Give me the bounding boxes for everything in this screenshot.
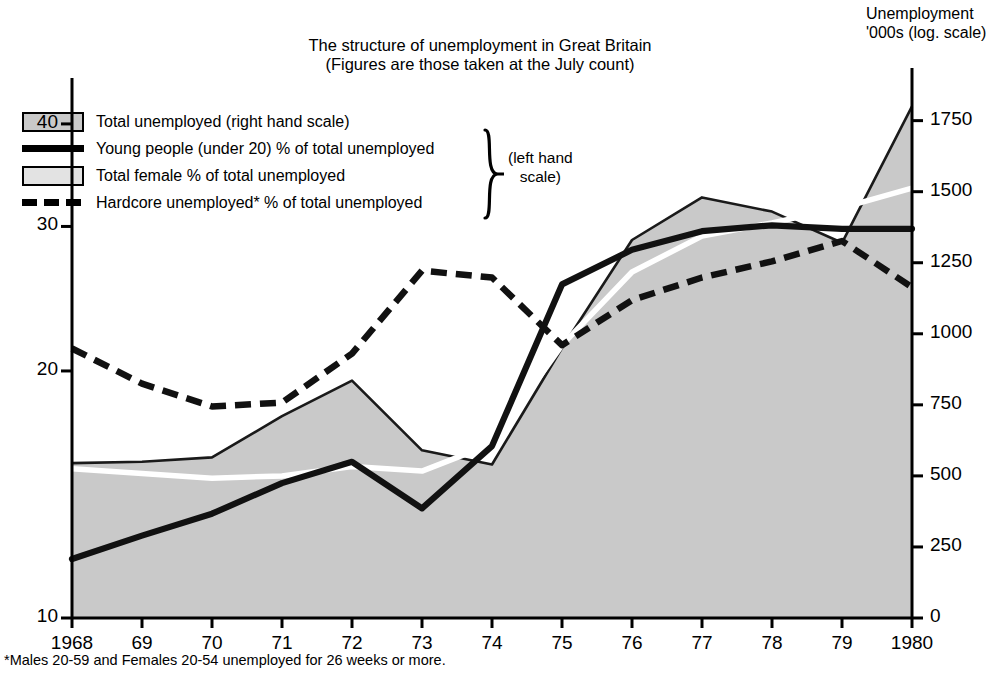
plot-area: [0, 0, 987, 680]
x-axis-tick-label: 76: [602, 632, 662, 654]
right-axis-tick-label: 750: [930, 392, 962, 414]
x-axis-tick-label: 77: [672, 632, 732, 654]
x-axis-tick-label: 1980: [882, 632, 942, 654]
x-axis-tick-label: 79: [812, 632, 872, 654]
right-axis-tick-label: 1000: [930, 321, 972, 343]
x-axis-tick-label: 78: [742, 632, 802, 654]
series-area-total-unemployed: [72, 106, 912, 618]
right-axis-tick-label: 500: [930, 463, 962, 485]
left-axis-tick-label: 20: [16, 358, 58, 380]
right-axis-tick-label: 250: [930, 534, 962, 556]
left-axis-tick-label: 40: [16, 111, 58, 133]
chart-footnote: *Males 20-59 and Females 20-54 unemploye…: [4, 652, 446, 668]
x-axis-tick-label: 71: [252, 632, 312, 654]
x-axis-tick-label: 74: [462, 632, 522, 654]
x-axis-tick-label: 73: [392, 632, 452, 654]
left-axis-tick-label: 10: [16, 605, 58, 627]
right-axis-tick-label: 1250: [930, 250, 972, 272]
plot-svg: [0, 0, 987, 680]
x-axis-tick-label: 1968: [42, 632, 102, 654]
x-axis-tick-label: 75: [532, 632, 592, 654]
chart-page: The structure of unemployment in Great B…: [0, 0, 987, 680]
left-axis-tick-label: 30: [16, 213, 58, 235]
x-axis-tick-label: 72: [322, 632, 382, 654]
x-axis-tick-label: 70: [182, 632, 242, 654]
right-axis-tick-label: 0: [930, 605, 941, 627]
right-axis-tick-label: 1750: [930, 108, 972, 130]
right-axis-tick-label: 1500: [930, 179, 972, 201]
x-axis-tick-label: 69: [112, 632, 172, 654]
